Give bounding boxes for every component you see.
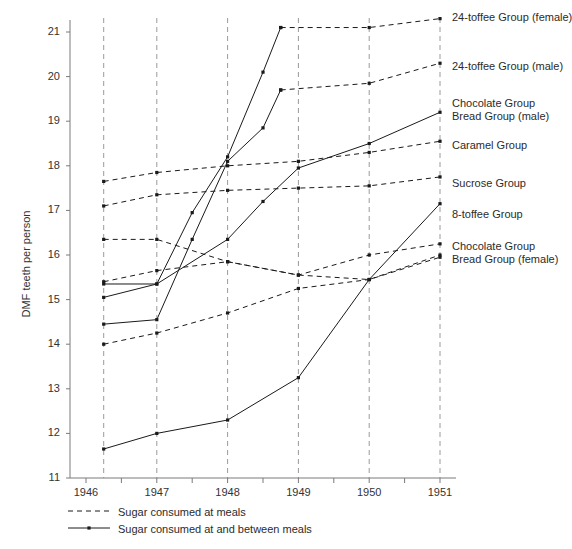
series-marker-6-1	[155, 193, 158, 196]
series-marker-0-4	[261, 71, 264, 74]
x-tick-label-5: 1951	[420, 487, 460, 498]
series-line-0	[104, 28, 281, 298]
series-marker-5-2	[226, 164, 229, 167]
series-marker-7-3	[297, 376, 300, 379]
series-line-2	[104, 90, 281, 324]
series-line-5	[104, 141, 440, 181]
y-tick-label-6: 15	[36, 294, 60, 305]
series-marker-8-0	[102, 238, 105, 241]
series-marker-6-3	[297, 187, 300, 190]
series-marker-10-3	[297, 287, 300, 290]
series-marker-8-4	[368, 253, 371, 256]
series-marker-4-4	[297, 166, 300, 169]
series-marker-0-3	[226, 155, 229, 158]
y-tick-label-3: 18	[36, 160, 60, 171]
series-line-6	[104, 177, 440, 206]
series-end-label-line1-4: Sucrose Group	[452, 177, 526, 190]
y-tick-label-1: 20	[36, 71, 60, 82]
series-end-label-0: 24-toffee Group (female)	[452, 11, 572, 24]
series-end-label-3: Caramel Group	[452, 139, 527, 152]
legend-label-solid: Sugar consumed at and between meals	[118, 523, 312, 535]
series-end-label-line2-2: Bread Group (male)	[452, 110, 549, 123]
series-line-7	[104, 204, 440, 449]
series-marker-2-0	[102, 323, 105, 326]
series-marker-2-2	[191, 238, 194, 241]
series-marker-10-2	[226, 311, 229, 314]
series-marker-5-1	[155, 171, 158, 174]
series-marker-0-0	[102, 296, 105, 299]
series-marker-8-1	[155, 238, 158, 241]
series-marker-1-2	[438, 17, 441, 20]
series-line-1	[281, 19, 440, 28]
series-marker-10-0	[102, 343, 105, 346]
series-marker-4-5	[368, 142, 371, 145]
series-group	[102, 17, 442, 451]
y-tick-label-5: 16	[36, 249, 60, 260]
series-end-label-line1-1: 24-toffee Group (male)	[452, 60, 563, 73]
series-marker-5-0	[102, 180, 105, 183]
legend-item-dashed: Sugar consumed at meals	[118, 506, 246, 518]
series-marker-5-3	[297, 160, 300, 163]
series-marker-1-0	[279, 26, 282, 29]
y-tick-label-2: 19	[36, 115, 60, 126]
series-marker-2-4	[261, 126, 264, 129]
series-end-label-line1-6: Chocolate Group	[452, 240, 558, 253]
y-tick-label-4: 17	[36, 204, 60, 215]
legend-item-solid: Sugar consumed at and between meals	[118, 523, 312, 535]
series-marker-9-1	[155, 269, 158, 272]
series-marker-4-2	[226, 238, 229, 241]
series-end-label-2: Chocolate GroupBread Group (male)	[452, 97, 549, 123]
series-end-label-line1-0: 24-toffee Group (female)	[452, 11, 572, 24]
series-marker-7-5	[438, 202, 441, 205]
axes-group	[66, 20, 456, 483]
series-marker-0-2	[191, 211, 194, 214]
series-marker-6-4	[368, 184, 371, 187]
series-marker-9-3	[297, 273, 300, 276]
series-marker-8-5	[438, 242, 441, 245]
series-end-label-line1-5: 8-toffee Group	[452, 208, 523, 221]
series-marker-6-2	[226, 189, 229, 192]
x-tick-label-3: 1949	[278, 487, 318, 498]
x-tick-label-4: 1950	[349, 487, 389, 498]
series-marker-9-0	[102, 280, 105, 283]
series-marker-4-3	[261, 200, 264, 203]
series-marker-10-1	[155, 331, 158, 334]
y-tick-label-7: 14	[36, 338, 60, 349]
series-marker-10-4	[368, 278, 371, 281]
legend-label-dashed: Sugar consumed at meals	[118, 506, 246, 518]
series-marker-5-4	[368, 151, 371, 154]
series-marker-1-1	[368, 26, 371, 29]
series-end-label-4: Sucrose Group	[452, 177, 526, 190]
series-marker-7-2	[226, 418, 229, 421]
series-marker-10-5	[438, 256, 441, 259]
series-marker-2-1	[155, 318, 158, 321]
y-axis-title: DMF teeth per person	[20, 194, 32, 334]
series-end-label-line1-3: Caramel Group	[452, 139, 527, 152]
x-tick-label-2: 1948	[208, 487, 248, 498]
x-tick-label-0: 1946	[66, 487, 106, 498]
y-tick-label-10: 11	[36, 472, 60, 483]
series-end-label-5: 8-toffee Group	[452, 208, 523, 221]
series-marker-7-0	[102, 447, 105, 450]
series-end-label-line2-6: Bread Group (female)	[452, 253, 558, 266]
series-marker-4-6	[438, 111, 441, 114]
series-marker-4-1	[155, 282, 158, 285]
series-line-3	[281, 63, 440, 90]
series-line-9	[104, 255, 440, 282]
y-tick-label-9: 12	[36, 427, 60, 438]
series-marker-3-2	[438, 62, 441, 65]
series-end-label-1: 24-toffee Group (male)	[452, 60, 563, 73]
series-end-label-6: Chocolate GroupBread Group (female)	[452, 240, 558, 266]
series-marker-6-5	[438, 175, 441, 178]
y-tick-label-8: 13	[36, 383, 60, 394]
series-marker-6-0	[102, 204, 105, 207]
series-marker-9-2	[226, 260, 229, 263]
gridlines-group	[104, 18, 440, 478]
series-marker-3-1	[368, 82, 371, 85]
legend-symbols	[68, 511, 110, 530]
series-marker-5-5	[438, 140, 441, 143]
series-marker-3-0	[279, 88, 282, 91]
y-tick-label-0: 21	[36, 26, 60, 37]
